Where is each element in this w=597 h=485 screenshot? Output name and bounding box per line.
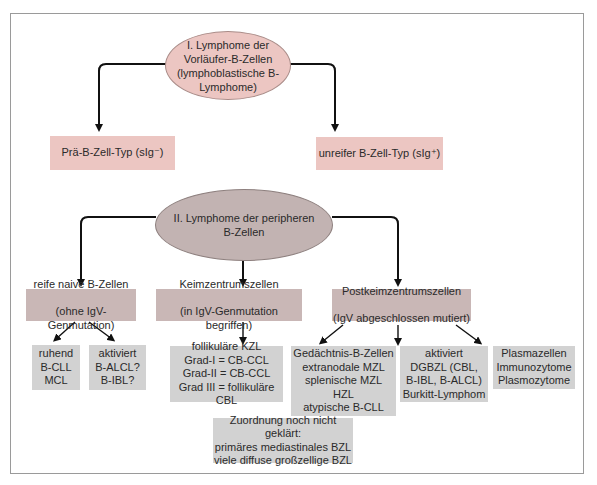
category-mature-naive-line2: (ohne IgV-Genmutation) <box>26 305 136 332</box>
leaf-activated-naive: aktiviert B-ALCL? B-IBL? <box>89 345 146 390</box>
category-mature-naive-b-cells: reife naive B-Zellen (ohne IgV-Genmutati… <box>26 289 136 321</box>
leaf-resting-naive-text: ruhend B-CLL MCL <box>39 347 73 388</box>
leaf-memory-b-cells-text: Gedächtnis-B-Zellen extranodale MZL sple… <box>293 347 393 415</box>
unassigned-note-text: Zuordnung noch nicht geklärt: primäres m… <box>213 414 353 468</box>
leaf-memory-b-cells: Gedächtnis-B-Zellen extranodale MZL sple… <box>291 346 396 416</box>
node-pre-b-cell-type-label: Prä-B-Zell-Typ (sIg⁻) <box>62 146 164 160</box>
leaf-plasma-cells: Plasmazellen Immunozytome Plasmozytome <box>493 346 575 389</box>
category-germinal-center-cells: Keimzentrumszellen (in IgV-Genmutation b… <box>156 289 302 321</box>
node-immature-b-cell-type: unreifer B-Zell-Typ (sIg⁺) <box>316 137 443 170</box>
leaf-activated-naive-text: aktiviert B-ALCL? B-IBL? <box>95 347 140 388</box>
node-pre-b-cell-type: Prä-B-Zell-Typ (sIg⁻) <box>50 136 175 170</box>
unassigned-note: Zuordnung noch nicht geklärt: primäres m… <box>213 418 353 463</box>
category-mature-naive-line1: reife naive B-Zellen <box>26 278 136 292</box>
category-post-germinal-line2: (IgV abgeschlossen mutiert) <box>333 312 470 326</box>
root-precursor-b-cell-lymphomas: I. Lymphome der Vorläufer-B-Zellen (lymp… <box>165 31 291 100</box>
leaf-follicular-gcl: follikuläre KZL Grad-I = CB-CCL Grad-II … <box>170 346 283 402</box>
leaf-follicular-gcl-text: follikuläre KZL Grad-I = CB-CCL Grad-II … <box>170 340 283 408</box>
root-precursor-line1: I. Lymphome der Vorläufer-B-Zellen <box>166 38 290 66</box>
leaf-activated-post-gc: aktiviert DGBZL (CBL, B-IBL, B-ALCL) Bur… <box>400 346 488 402</box>
category-germinal-center-line2: (in IgV-Genmutation begriffen) <box>156 305 302 332</box>
node-immature-b-cell-type-label: unreifer B-Zell-Typ (sIg⁺) <box>319 147 441 161</box>
root-precursor-line2: (lymphoblastische B-Lymphome) <box>166 66 290 94</box>
category-post-germinal-line1: Postkeimzentrumszellen <box>333 285 470 299</box>
leaf-activated-post-gc-text: aktiviert DGBZL (CBL, B-IBL, B-ALCL) Bur… <box>403 347 486 401</box>
category-post-germinal-center-cells: Postkeimzentrumszellen (IgV abgeschlosse… <box>332 289 471 321</box>
leaf-resting-naive: ruhend B-CLL MCL <box>32 345 80 390</box>
root-peripheral-line1: II. Lymphome der peripheren <box>174 211 315 225</box>
root-peripheral-b-cell-lymphomas: II. Lymphome der peripheren B-Zellen <box>155 189 333 261</box>
category-germinal-center-line1: Keimzentrumszellen <box>156 278 302 292</box>
root-peripheral-line2: B-Zellen <box>174 225 315 239</box>
leaf-plasma-cells-text: Plasmazellen Immunozytome Plasmozytome <box>496 347 571 388</box>
